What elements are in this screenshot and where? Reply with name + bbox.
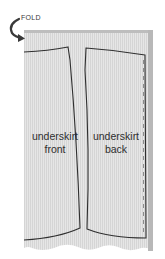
pattern-layout-diagram: FOLD underskirt front underskirt back [0, 0, 165, 259]
underskirt-back-label-line1: underskirt [88, 130, 144, 143]
selvage-edge [148, 30, 153, 251]
fold-arrow-head-icon [18, 34, 25, 42]
underskirt-back-label: underskirt back [88, 130, 144, 156]
fold-label: FOLD [21, 14, 41, 21]
underskirt-front-label-line1: underskirt [27, 130, 83, 143]
fabric-fold-edge [24, 30, 153, 33]
underskirt-back-label-line2: back [88, 143, 144, 156]
underskirt-front-label-line2: front [27, 143, 83, 156]
fold-arrow-icon [11, 19, 22, 38]
underskirt-front-label: underskirt front [27, 130, 83, 156]
